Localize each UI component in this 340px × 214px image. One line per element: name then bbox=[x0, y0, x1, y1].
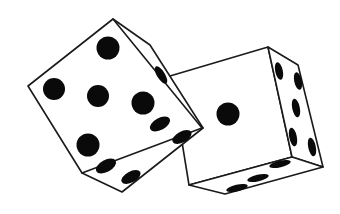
pip-dot bbox=[43, 78, 65, 100]
dice-illustration bbox=[0, 0, 340, 214]
pip-dot bbox=[217, 103, 240, 126]
pip-dot bbox=[132, 92, 155, 115]
pip-dot bbox=[97, 37, 120, 60]
left-die bbox=[28, 19, 203, 192]
pip-dot bbox=[77, 134, 100, 157]
pip-dot bbox=[87, 85, 109, 107]
